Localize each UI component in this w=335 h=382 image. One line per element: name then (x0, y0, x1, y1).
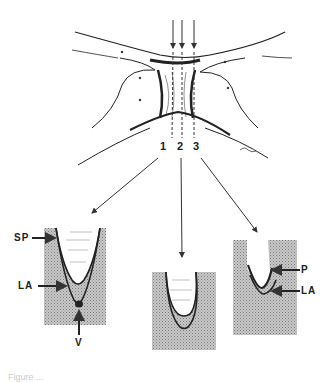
label-v: V (75, 337, 83, 348)
probe-label-3: 3 (193, 140, 199, 152)
label-sp: SP (14, 232, 29, 243)
section-1 (32, 228, 106, 335)
figure-caption: Figure ... (8, 372, 328, 382)
label-la-3: LA (301, 285, 316, 296)
probe-paths (172, 20, 194, 138)
label-la-1: LA (18, 280, 33, 291)
probe-label-2: 2 (177, 140, 183, 152)
section-2 (152, 272, 216, 350)
label-p: P (301, 264, 309, 275)
leader-arrows (92, 158, 257, 257)
section-3 (233, 240, 300, 335)
probe-label-1: 1 (160, 140, 166, 152)
diagram-canvas (0, 0, 335, 382)
